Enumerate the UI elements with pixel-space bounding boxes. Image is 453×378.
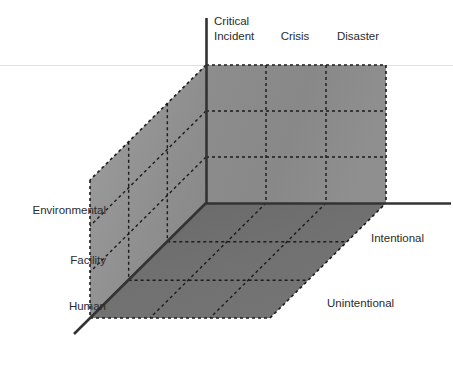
back-face-severity-impact-plane [206, 65, 386, 203]
diagram-canvas: Critical Incident Crisis Disaster Enviro… [0, 0, 453, 378]
label-environmental: Environmental [32, 204, 106, 216]
label-critical-incident-line2: Incident [214, 30, 255, 42]
label-critical-incident-line1: Critical [214, 15, 249, 27]
label-crisis: Crisis [281, 30, 310, 42]
label-intentional: Intentional [371, 232, 424, 244]
label-facility: Facility [70, 254, 106, 266]
label-human: Human [69, 300, 106, 312]
three-dimensional-taxonomy-cube: Critical Incident Crisis Disaster Enviro… [0, 0, 453, 378]
label-disaster: Disaster [337, 30, 379, 42]
label-unintentional: Unintentional [327, 297, 394, 309]
